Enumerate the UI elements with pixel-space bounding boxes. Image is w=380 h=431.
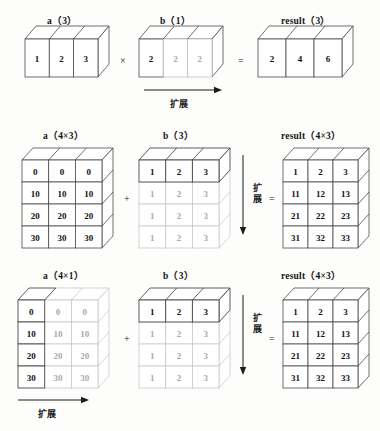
row2-result-caption: result（4×3） bbox=[281, 128, 341, 142]
row2-a-cell-1-1: 10 bbox=[58, 189, 68, 199]
row2-operator-equals: = bbox=[269, 193, 275, 204]
row3-a-cell-3-2: 30 bbox=[80, 373, 90, 383]
row3-a-cell-1-1: 10 bbox=[54, 329, 64, 339]
row3-b-cell-0-2: 3 bbox=[203, 307, 208, 317]
row3-b-expand-arrow bbox=[239, 295, 249, 377]
row3-b-cell-2-0: 1 bbox=[150, 351, 155, 361]
row3-a-expand-label: 扩展 bbox=[38, 407, 56, 420]
row2-expand-arrow bbox=[239, 155, 249, 237]
row1-b-caption: b（1） bbox=[160, 13, 191, 27]
row3-b-caption: b（3） bbox=[163, 268, 194, 282]
row1-expand-label: 扩展 bbox=[170, 97, 188, 110]
row2-b-caption: b（3） bbox=[163, 128, 194, 142]
row3-result-caption: result（4×3） bbox=[281, 268, 341, 282]
row3-operator-plus: + bbox=[124, 333, 130, 344]
row3-b-box: 1 2 3 1 2 3 1 2 3 1 2 3 bbox=[139, 288, 249, 392]
row2-a-box: 0 0 0 10 10 10 20 20 20 30 30 30 bbox=[22, 148, 132, 252]
row3-b-cell-3-0: 1 bbox=[150, 373, 155, 383]
row3-a-cell-3-0: 30 bbox=[27, 373, 37, 383]
row2-result-cell-1-1: 12 bbox=[316, 189, 326, 199]
row2-result-box: 1 2 3 11 12 13 21 22 23 31 32 33 bbox=[283, 148, 380, 252]
row2-a-cell-3-0: 30 bbox=[31, 233, 41, 243]
row3-a-expand-arrow bbox=[18, 396, 98, 406]
row2-result-cell-2-2: 23 bbox=[341, 211, 351, 221]
row2-b-cell-3-1: 2 bbox=[177, 233, 182, 243]
row3-result-cell-0-2: 3 bbox=[343, 307, 348, 317]
row3-b-cell-0-1: 2 bbox=[177, 307, 182, 317]
row2-a-cell-2-1: 20 bbox=[58, 211, 68, 221]
row3-a-cell-3-1: 30 bbox=[54, 373, 64, 383]
row3-result-cell-3-0: 31 bbox=[291, 373, 301, 383]
row1-b-cell-0: 2 bbox=[149, 54, 154, 64]
row2-b-cell-2-1: 2 bbox=[177, 211, 182, 221]
row3-a-cell-1-2: 10 bbox=[80, 329, 90, 339]
row3-result-cell-1-1: 12 bbox=[316, 329, 326, 339]
row2-expand-label: 扩展 bbox=[252, 183, 262, 205]
row1-result-caption: result（3） bbox=[281, 13, 331, 27]
row3-b-cell-1-0: 1 bbox=[150, 329, 155, 339]
row1-b-cell-1: 2 bbox=[173, 54, 178, 64]
row2-b-cell-0-1: 2 bbox=[177, 167, 182, 177]
row3-result-cell-3-2: 33 bbox=[341, 373, 351, 383]
row2-a-cell-1-0: 10 bbox=[31, 189, 41, 199]
row2-a-cell-3-2: 30 bbox=[84, 233, 94, 243]
row1-b-box: 2 2 2 bbox=[139, 26, 235, 84]
row1-expand-arrow bbox=[144, 86, 224, 96]
row3-result-cell-3-1: 32 bbox=[316, 373, 326, 383]
row2-b-cell-2-0: 1 bbox=[150, 211, 155, 221]
row2-result-cell-1-0: 11 bbox=[291, 189, 300, 199]
row2-b-cell-0-0: 1 bbox=[150, 167, 155, 177]
row2-a-cell-2-2: 20 bbox=[84, 211, 94, 221]
row3-result-cell-0-1: 2 bbox=[318, 307, 323, 317]
row3-a-cell-2-1: 20 bbox=[54, 351, 64, 361]
row3-result-cell-2-1: 22 bbox=[316, 351, 326, 361]
row2-result-cell-0-2: 3 bbox=[343, 167, 348, 177]
row2-a-cell-2-0: 20 bbox=[31, 211, 41, 221]
row2-b-box: 1 2 3 1 2 3 1 2 3 1 2 3 bbox=[139, 148, 249, 252]
row2-a-cell-0-0: 0 bbox=[33, 167, 38, 177]
row2-a-cell-0-1: 0 bbox=[60, 167, 65, 177]
row2-result-cell-1-2: 13 bbox=[341, 189, 351, 199]
row3-b-cell-3-1: 2 bbox=[177, 373, 182, 383]
row1-result-cell-1: 4 bbox=[298, 54, 303, 64]
row3-a-cell-0-0: 0 bbox=[29, 307, 34, 317]
row1-operator-multiply: × bbox=[120, 55, 126, 66]
row1-result-box: 2 4 6 bbox=[258, 26, 368, 84]
row3-result-cell-2-0: 21 bbox=[291, 351, 301, 361]
row1-b-cell-2: 2 bbox=[198, 54, 203, 64]
row3-a-cell-0-2: 0 bbox=[82, 307, 87, 317]
row2-b-cell-1-1: 2 bbox=[177, 189, 182, 199]
row3-b-expand-label: 扩展 bbox=[252, 313, 262, 335]
row3-result-cell-1-0: 11 bbox=[291, 329, 300, 339]
row1-result-cell-2: 6 bbox=[326, 54, 331, 64]
row2-b-cell-2-2: 3 bbox=[203, 211, 208, 221]
row3-b-cell-2-1: 2 bbox=[177, 351, 182, 361]
row3-result-box: 1 2 3 11 12 13 21 22 23 31 32 33 bbox=[283, 288, 380, 392]
row1-a-box: 1 2 3 bbox=[25, 26, 121, 84]
row2-a-cell-0-2: 0 bbox=[86, 167, 91, 177]
row2-b-cell-0-2: 3 bbox=[203, 167, 208, 177]
row2-result-cell-2-0: 21 bbox=[291, 211, 301, 221]
row1-a-cell-1: 2 bbox=[59, 54, 64, 64]
row3-b-cell-1-1: 2 bbox=[177, 329, 182, 339]
row2-a-caption: a（4×3） bbox=[43, 128, 84, 142]
row2-result-cell-3-2: 33 bbox=[341, 233, 351, 243]
row1-a-cell-2: 3 bbox=[84, 54, 89, 64]
row2-result-cell-0-1: 2 bbox=[318, 167, 323, 177]
row2-b-cell-1-2: 3 bbox=[203, 189, 208, 199]
row1-operator-equals: = bbox=[238, 55, 244, 66]
row3-a-cell-1-0: 10 bbox=[27, 329, 37, 339]
row3-a-box: 0 0 0 10 10 10 20 20 20 30 30 30 bbox=[18, 288, 128, 392]
row2-b-cell-1-0: 1 bbox=[150, 189, 155, 199]
row3-result-cell-0-0: 1 bbox=[293, 307, 298, 317]
row2-result-cell-2-1: 22 bbox=[316, 211, 326, 221]
row2-b-cell-3-0: 1 bbox=[150, 233, 155, 243]
row2-a-cell-1-2: 10 bbox=[84, 189, 94, 199]
row2-operator-plus: + bbox=[124, 193, 130, 204]
row1-result-cell-0: 2 bbox=[270, 54, 275, 64]
row3-a-cell-2-0: 20 bbox=[27, 351, 37, 361]
row3-a-cell-0-1: 0 bbox=[56, 307, 61, 317]
row3-b-cell-3-2: 3 bbox=[203, 373, 208, 383]
row2-result-cell-3-0: 31 bbox=[291, 233, 301, 243]
row3-b-cell-0-0: 1 bbox=[150, 307, 155, 317]
